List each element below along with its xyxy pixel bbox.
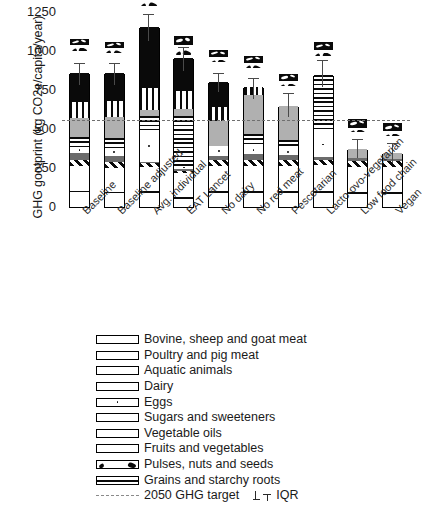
- bar-segment-poultry: [105, 101, 124, 117]
- legend-label: Aquatic animals: [144, 364, 232, 377]
- bar-segment-eggs: [314, 132, 333, 157]
- bar-segment-aquatic: [174, 109, 193, 116]
- legend-label: Pulses, nuts and seeds: [144, 458, 273, 471]
- bar-segment-sugars: [70, 153, 89, 160]
- bar-segment-dairy: [140, 116, 159, 130]
- error-bar-cap-upper: [283, 93, 294, 94]
- bar-segment-fruits: [209, 50, 228, 57]
- plot-area: GHG gootprint (kg CO2e/capita/year) 1250…: [0, 0, 412, 330]
- legend-label: Bovine, sheep and goat meat: [144, 333, 307, 346]
- legend-label: Sugars and sweeteners: [144, 411, 275, 424]
- legend-item: 2050 GHG targetIQR: [96, 488, 396, 504]
- error-bar-iqr: [288, 94, 289, 117]
- legend-item: Poultry and pig meat: [96, 348, 396, 364]
- bar-segment-aquatic: [244, 95, 263, 134]
- bar-column: [62, 0, 97, 208]
- legend-swatch-grains: [96, 476, 139, 485]
- legend-item: Eggs: [96, 394, 396, 410]
- bar-segment-poultry: [140, 88, 159, 110]
- bar-segment-oils: [209, 160, 228, 166]
- legend-item: Vegetable oils: [96, 426, 396, 442]
- legend-swatch-fruits: [96, 444, 139, 453]
- bar-segment-pulses: [209, 60, 228, 62]
- error-bar-iqr: [322, 61, 323, 87]
- legend-label: Grains and starchy roots: [144, 474, 280, 487]
- stacked-bar: [69, 74, 90, 208]
- iqr-glyph-icon: [253, 490, 273, 502]
- y-tick-label: 250: [14, 163, 56, 173]
- y-tick-label: 1000: [14, 46, 56, 56]
- bar-segment-poultry: [70, 102, 89, 118]
- bar-segment-poultry: [209, 107, 228, 122]
- bar-segment-dairy: [70, 137, 89, 147]
- legend-item: Sugars and sweeteners: [96, 410, 396, 426]
- error-bar-cap-upper: [317, 60, 328, 61]
- y-tick-label: 0: [14, 202, 56, 212]
- legend-swatch-poultry: [96, 351, 139, 360]
- bar-segment-eggs: [209, 146, 228, 157]
- bar-segment-pulses: [314, 53, 333, 56]
- legend-item: Fruits and vegetables: [96, 441, 396, 457]
- legend-swatch-sugars: [96, 413, 139, 422]
- bar-segment-aquatic: [209, 121, 228, 146]
- target-reference-line: [62, 120, 410, 121]
- bar-column: [97, 0, 132, 208]
- y-tick-label: 750: [14, 85, 56, 95]
- legend-label: Eggs: [144, 396, 173, 409]
- legend-item: Dairy: [96, 379, 396, 395]
- legend-label-iqr: IQR: [276, 489, 298, 502]
- bar-segment-eggs: [105, 149, 124, 157]
- error-bar-iqr: [79, 64, 80, 86]
- legend-label: Vegetable oils: [144, 427, 222, 440]
- legend-label: Poultry and pig meat: [144, 349, 259, 362]
- bar-segment-pulses: [383, 134, 402, 137]
- error-bar-cap-upper: [109, 63, 120, 64]
- bar-segment-dairy: [105, 138, 124, 149]
- bar-segment-oils: [70, 160, 89, 166]
- bar-segment-fruits: [279, 74, 298, 82]
- legend-swatch-eggs: [96, 398, 139, 407]
- error-bar-iqr: [253, 79, 254, 99]
- x-axis-labels: BaselineBaseline adjustedAvg. individual…: [62, 208, 410, 328]
- legend-swatch-pulses: [96, 460, 139, 469]
- error-bar-cap-upper: [178, 47, 189, 48]
- bar-segment-oils: [279, 160, 298, 166]
- error-bar-iqr: [114, 64, 115, 86]
- legend-label: 2050 GHG target: [144, 489, 239, 502]
- error-bar-cap-upper: [213, 73, 224, 74]
- bar-segment-pulses: [348, 130, 367, 132]
- bar-segment-eggs: [140, 130, 159, 161]
- bar-column: [236, 0, 271, 208]
- bar-segment-fruits: [174, 36, 193, 46]
- bar-segment-fruits: [383, 123, 402, 131]
- bar-segment-pulses: [140, 2, 159, 6]
- y-axis-ticks: 1250 1000 750 500 250 0: [6, 0, 56, 220]
- legend-swatch-aquatic: [96, 366, 139, 375]
- legend-item: Aquatic animals: [96, 363, 396, 379]
- error-bar-cap-upper: [248, 78, 259, 79]
- legend-swatch-oils: [96, 429, 139, 438]
- legend-swatch-target-line: [96, 495, 139, 496]
- legend-label: Dairy: [144, 380, 173, 393]
- bar-segment-fruits: [70, 39, 89, 45]
- bar-segment-oils: [105, 162, 124, 168]
- chart-legend: Bovine, sheep and goat meatPoultry and p…: [96, 332, 396, 504]
- legend-item: Bovine, sheep and goat meat: [96, 332, 396, 348]
- bar-segment-fruits: [105, 42, 124, 48]
- legend-item: Pulses, nuts and seeds: [96, 457, 396, 473]
- legend-label: Fruits and vegetables: [144, 442, 264, 455]
- bar-segment-fruits: [244, 56, 263, 63]
- bar-segment-oils: [244, 160, 263, 166]
- bar-segment-dairy: [279, 140, 298, 149]
- y-tick-label: 500: [14, 124, 56, 134]
- error-bar-cap-upper: [74, 63, 85, 64]
- error-bar-iqr: [218, 74, 219, 92]
- bar-segment-pulses: [70, 48, 89, 51]
- bar-segment-pulses: [105, 50, 124, 52]
- error-bar-cap-upper: [352, 139, 363, 140]
- bar-segment-oils: [314, 160, 333, 165]
- legend-swatch-dairy: [96, 382, 139, 391]
- bar-segment-eggs: [244, 146, 263, 154]
- legend-swatch-bovine: [96, 335, 139, 344]
